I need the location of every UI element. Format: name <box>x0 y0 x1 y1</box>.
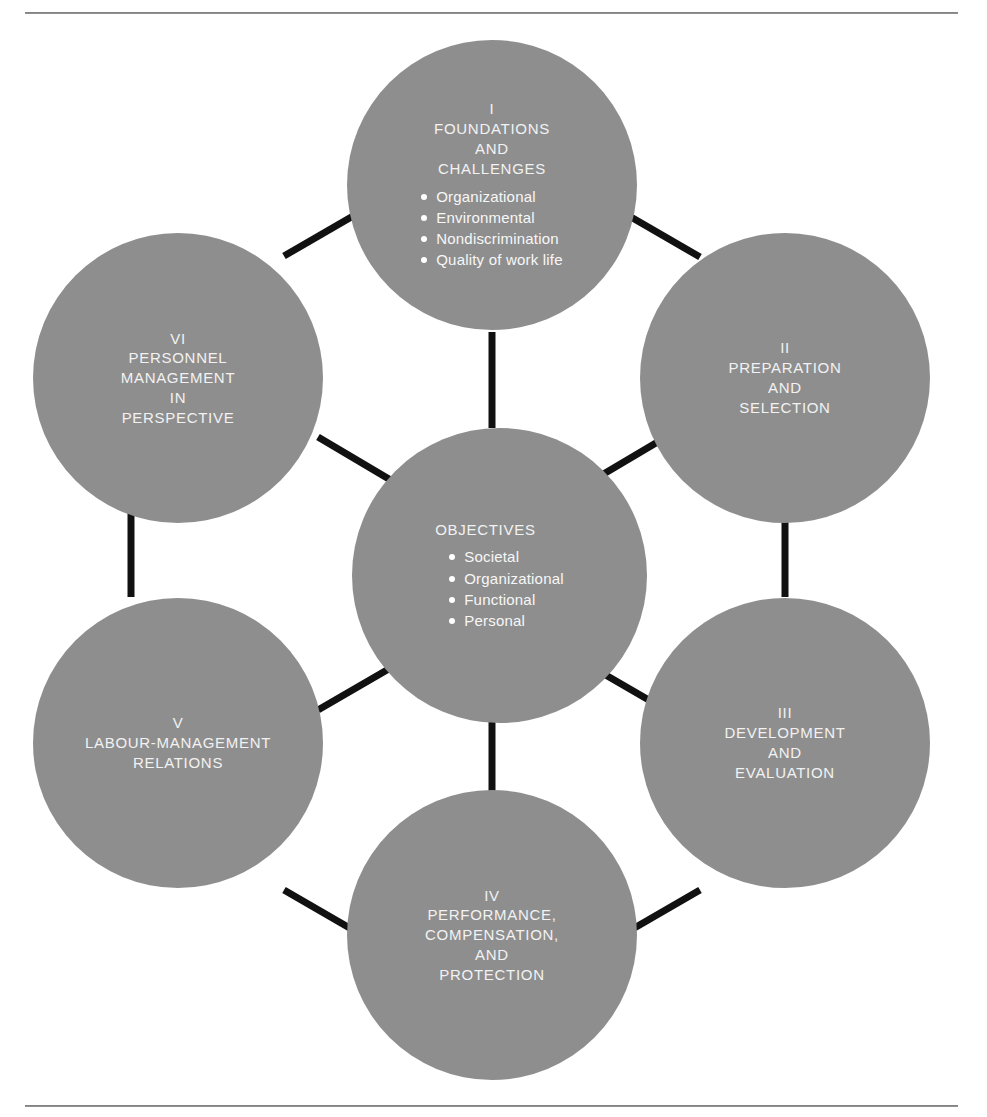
node-part-1-foundations-and-challenges[interactable]: I FOUNDATIONS AND CHALLENGES Organizatio… <box>347 40 637 330</box>
page: I FOUNDATIONS AND CHALLENGES Organizatio… <box>0 0 987 1117</box>
node-part-6-personnel-management-in-perspective[interactable]: VI PERSONNEL MANAGEMENT IN PERSPECTIVE <box>33 233 323 523</box>
node-part-5-content: V LABOUR-MANAGEMENT RELATIONS <box>85 713 271 772</box>
connector-vi-i <box>284 212 360 256</box>
personnel-management-framework-diagram: I FOUNDATIONS AND CHALLENGES Organizatio… <box>0 0 987 1117</box>
node-center-bullet-list: Societal Organizational Functional Perso… <box>449 546 564 631</box>
node-part-2-title: II PREPARATION AND SELECTION <box>729 338 842 417</box>
list-item: Personal <box>449 610 564 631</box>
list-item: Environmental <box>421 207 563 228</box>
node-part-3-content: III DEVELOPMENT AND EVALUATION <box>724 703 845 782</box>
node-part-3-development-and-evaluation[interactable]: III DEVELOPMENT AND EVALUATION <box>640 598 930 888</box>
node-part-2-content: II PREPARATION AND SELECTION <box>729 338 842 417</box>
list-item: Quality of work life <box>421 249 563 270</box>
node-center-objectives[interactable]: OBJECTIVES Societal Organizational Funct… <box>352 428 647 723</box>
node-part-1-bullet-list: Organizational Environmental Nondiscrimi… <box>421 186 563 271</box>
list-item: Societal <box>449 546 564 567</box>
node-center-title: OBJECTIVES <box>435 520 564 540</box>
node-part-6-title: VI PERSONNEL MANAGEMENT IN PERSPECTIVE <box>121 329 236 428</box>
node-part-6-content: VI PERSONNEL MANAGEMENT IN PERSPECTIVE <box>121 329 236 428</box>
list-item: Organizational <box>421 186 563 207</box>
connector-vi-center <box>318 437 399 485</box>
node-part-4-title: IV PERFORMANCE, COMPENSATION, AND PROTEC… <box>425 886 559 985</box>
list-item: Functional <box>449 589 564 610</box>
node-part-2-preparation-and-selection[interactable]: II PREPARATION AND SELECTION <box>640 233 930 523</box>
node-part-1-title: I FOUNDATIONS AND CHALLENGES <box>421 99 563 178</box>
node-part-5-title: V LABOUR-MANAGEMENT RELATIONS <box>85 713 271 772</box>
list-item: Nondiscrimination <box>421 228 563 249</box>
node-part-3-title: III DEVELOPMENT AND EVALUATION <box>724 703 845 782</box>
node-part-4-content: IV PERFORMANCE, COMPENSATION, AND PROTEC… <box>425 886 559 985</box>
node-part-1-content: I FOUNDATIONS AND CHALLENGES Organizatio… <box>421 99 563 270</box>
node-part-4-performance-compensation-and-protection[interactable]: IV PERFORMANCE, COMPENSATION, AND PROTEC… <box>347 790 637 1080</box>
connector-i-ii <box>624 213 700 257</box>
node-center-content: OBJECTIVES Societal Organizational Funct… <box>435 520 564 632</box>
list-item: Organizational <box>449 568 564 589</box>
node-part-5-labour-management-relations[interactable]: V LABOUR-MANAGEMENT RELATIONS <box>33 598 323 888</box>
